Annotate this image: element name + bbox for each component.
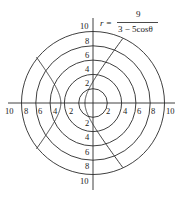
equation-label: r = 9 3 − 5cosθ: [100, 9, 158, 34]
tick-right-8: 8: [151, 106, 155, 116]
tick-top-4: 4: [85, 64, 90, 74]
tick-top-8: 8: [85, 36, 89, 46]
equation-lhs: r =: [100, 18, 112, 28]
equation-numerator: 9: [136, 9, 141, 19]
tick-bottom-4: 4: [85, 132, 90, 142]
tick-bottom-6: 6: [85, 147, 89, 157]
tick-top-10: 10: [80, 21, 89, 31]
tick-bottom-8: 8: [85, 161, 89, 171]
tick-bottom-2: 2: [85, 118, 89, 128]
tick-top-6: 6: [85, 50, 89, 60]
tick-left-2: 2: [69, 106, 73, 116]
tick-right-6: 6: [137, 106, 141, 116]
polar-plot: 10 8 6 4 2 2 4 6 8 10 10 8 6 4 2 2 4 6 8…: [0, 0, 183, 198]
tick-right-4: 4: [123, 106, 128, 116]
tick-top-2: 2: [85, 78, 89, 88]
tick-left-4: 4: [53, 106, 58, 116]
tick-left-10: 10: [5, 106, 14, 116]
tick-right-2: 2: [106, 106, 110, 116]
equation-denominator: 3 − 5cosθ: [118, 24, 153, 34]
tick-left-8: 8: [24, 106, 28, 116]
tick-bottom-10: 10: [80, 176, 89, 186]
tick-left-6: 6: [38, 106, 42, 116]
tick-right-10: 10: [166, 106, 175, 116]
